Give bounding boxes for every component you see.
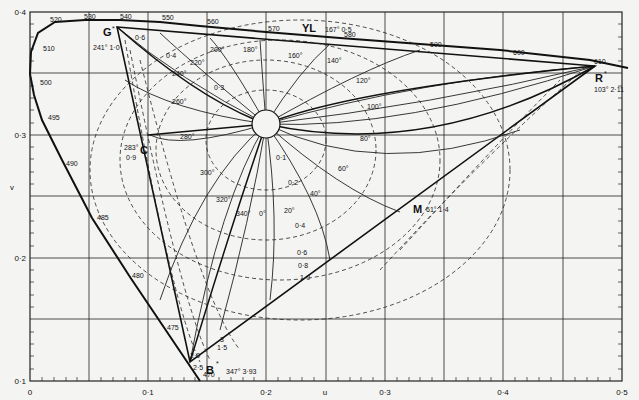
svg-text:260°: 260° xyxy=(172,98,187,105)
svg-text:61° 1·4: 61° 1·4 xyxy=(426,206,449,213)
svg-text:0·2: 0·2 xyxy=(14,254,26,263)
svg-text:200°: 200° xyxy=(210,46,225,53)
svg-text:0·2: 0·2 xyxy=(260,388,272,397)
svg-text:G: G xyxy=(103,26,112,38)
saturation-contours xyxy=(90,20,580,362)
svg-text:560: 560 xyxy=(207,18,219,25)
svg-text:2·0: 2·0 xyxy=(190,352,200,359)
svg-text:480: 480 xyxy=(132,272,144,279)
spectral-locus xyxy=(30,20,628,381)
svg-text:590: 590 xyxy=(430,41,442,48)
svg-text:0·1: 0·1 xyxy=(276,154,286,161)
grid xyxy=(30,12,622,381)
svg-text:490: 490 xyxy=(66,160,78,167)
svg-text:0·4: 0·4 xyxy=(295,222,305,229)
svg-text:YL: YL xyxy=(302,22,316,34)
svg-text:550: 550 xyxy=(162,14,174,21)
svg-text:R: R xyxy=(595,72,603,84)
svg-text:570: 570 xyxy=(268,25,280,32)
svg-text:240°: 240° xyxy=(172,70,187,77)
svg-text:20°: 20° xyxy=(284,207,295,214)
svg-text:0·3: 0·3 xyxy=(379,388,391,397)
svg-text:100°: 100° xyxy=(367,103,382,110)
svg-text:0·3: 0·3 xyxy=(14,131,26,140)
x-axis-title: u xyxy=(323,388,327,397)
svg-text:0: 0 xyxy=(28,388,33,397)
svg-text:M: M xyxy=(413,203,422,215)
svg-text:2·5: 2·5 xyxy=(193,364,203,371)
svg-text:0·4: 0·4 xyxy=(14,8,26,17)
svg-text:320°: 320° xyxy=(216,196,231,203)
svg-text:530: 530 xyxy=(84,13,96,20)
svg-text:0·9: 0·9 xyxy=(126,154,136,161)
svg-text:610: 610 xyxy=(594,58,606,65)
x-axis-labels: 0 0·1 0·2 0·3 0·4 0·5 u xyxy=(28,388,629,397)
svg-text:283°: 283° xyxy=(124,144,139,151)
svg-text:0·1: 0·1 xyxy=(14,377,26,386)
svg-text:0·3: 0·3 xyxy=(214,84,224,91)
svg-text:*: * xyxy=(604,70,607,77)
svg-text:510: 510 xyxy=(43,45,55,52)
svg-text:347° 3·93: 347° 3·93 xyxy=(226,368,257,375)
svg-text:167° 0·5: 167° 0·5 xyxy=(325,26,352,33)
svg-text:0·2: 0·2 xyxy=(288,179,298,186)
svg-text:160°: 160° xyxy=(288,52,303,59)
primary-G: G * 241° 1·0 xyxy=(93,25,120,51)
y-axis-title: v xyxy=(10,183,14,192)
svg-text:180°: 180° xyxy=(243,46,258,53)
point-C: C 283° 0·9 xyxy=(124,144,148,161)
svg-text:495: 495 xyxy=(48,114,60,121)
point-M: M 61° 1·4 xyxy=(413,203,449,215)
svg-text:1·0: 1·0 xyxy=(300,274,310,281)
svg-text:0·5: 0·5 xyxy=(616,388,628,397)
svg-text:0·1: 0·1 xyxy=(142,388,154,397)
svg-text:540: 540 xyxy=(120,13,132,20)
primary-B: B * 347° 3·93 xyxy=(206,360,257,376)
svg-text:*: * xyxy=(112,25,115,32)
svg-text:40°: 40° xyxy=(310,190,321,197)
svg-text:485: 485 xyxy=(97,214,109,221)
svg-text:600: 600 xyxy=(513,49,525,56)
svg-text:241° 1·0: 241° 1·0 xyxy=(93,44,120,51)
y-axis-labels: 0·1 0·2 0·3 0·4 v xyxy=(10,8,27,386)
svg-text:C: C xyxy=(140,144,148,156)
svg-text:340°: 340° xyxy=(236,210,251,217)
svg-text:280°: 280° xyxy=(180,133,195,140)
primary-R: R * 103° 2·11 xyxy=(594,70,624,93)
svg-text:B: B xyxy=(206,364,214,376)
svg-text:0·4: 0·4 xyxy=(497,388,509,397)
svg-text:520: 520 xyxy=(50,16,62,23)
point-Y: YL 167° 0·5 xyxy=(302,22,352,34)
svg-text:0·8: 0·8 xyxy=(298,262,308,269)
svg-text:140°: 140° xyxy=(327,57,342,64)
svg-text:*: * xyxy=(216,360,219,367)
svg-text:475: 475 xyxy=(167,324,179,331)
svg-text:80°: 80° xyxy=(360,135,371,142)
svg-text:0°: 0° xyxy=(259,210,266,217)
svg-text:500: 500 xyxy=(40,79,52,86)
svg-text:220°: 220° xyxy=(190,59,205,66)
svg-text:0·6: 0·6 xyxy=(297,249,307,256)
wavelength-labels: 470 475 480 485 490 495 500 510 520 530 … xyxy=(40,13,606,378)
svg-text:3: 3 xyxy=(220,336,224,343)
svg-text:1·5: 1·5 xyxy=(217,344,227,351)
svg-text:103° 2·11: 103° 2·11 xyxy=(594,86,624,93)
chromaticity-diagram: 0 0·1 0·2 0·3 0·4 0·5 u 0·1 0·2 0·3 0·4 … xyxy=(0,0,639,400)
svg-text:0·4: 0·4 xyxy=(166,52,176,59)
svg-text:0·6: 0·6 xyxy=(135,34,145,41)
svg-text:60°: 60° xyxy=(338,165,349,172)
white-point xyxy=(252,110,280,138)
svg-text:120°: 120° xyxy=(356,77,371,84)
svg-text:300°: 300° xyxy=(200,169,215,176)
